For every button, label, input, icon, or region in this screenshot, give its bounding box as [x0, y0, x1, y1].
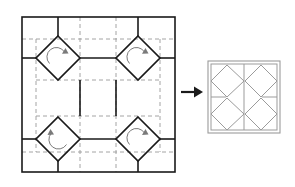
solid-horizontal-creases — [22, 58, 175, 139]
diamond-top-right — [116, 36, 160, 80]
rotation-arrowhead-tr — [142, 48, 149, 54]
rotation-arrowhead-bl — [48, 129, 55, 135]
diamond-bottom-left-shape — [36, 117, 80, 161]
transform-arrow — [181, 87, 203, 98]
diamond-top-left-shape — [36, 36, 80, 80]
rotation-arc-tr — [127, 47, 145, 63]
folded-result-group — [208, 61, 280, 133]
rotation-arc-tl — [47, 47, 65, 63]
result-diamond-top-right — [245, 65, 277, 97]
result-diamond-bottom-right — [245, 98, 277, 130]
rotation-arrowhead-br — [142, 129, 149, 135]
diamond-top-left — [36, 36, 80, 80]
rotation-arrow-top-right — [127, 47, 149, 63]
diamond-top-right-shape — [116, 36, 160, 80]
origami-figure: Origami crease-pattern transformation di… — [0, 0, 295, 187]
transform-arrow-head — [194, 87, 203, 98]
dashed-horizontal-lines — [22, 39, 175, 152]
diamond-bottom-left — [36, 117, 80, 161]
diamond-bottom-right — [116, 117, 160, 161]
diagram-canvas — [0, 0, 295, 187]
result-diamond-top-left — [211, 65, 244, 97]
rotation-arrow-top-left — [47, 47, 69, 63]
rotation-arrowhead-tl — [62, 48, 69, 54]
rotation-arc-br — [127, 128, 145, 144]
rotation-arrow-bottom-left — [48, 129, 67, 149]
crease-pattern-group — [22, 17, 175, 172]
rotation-arrow-bottom-right — [127, 128, 149, 144]
rotation-arc-bl — [49, 133, 67, 149]
result-diamond-bottom-left — [211, 98, 244, 130]
diamond-bottom-right-shape — [116, 117, 160, 161]
